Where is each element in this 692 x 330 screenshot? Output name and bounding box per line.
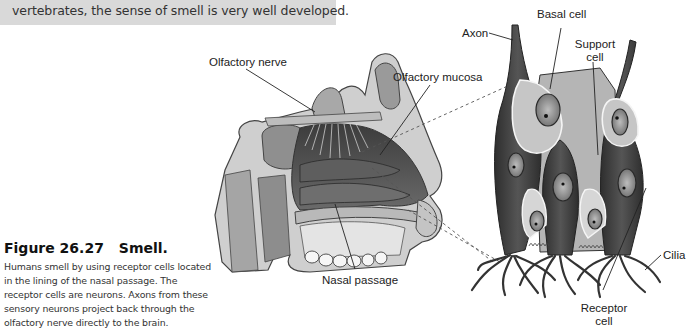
- label-olfactory-nerve: Olfactory nerve: [209, 56, 287, 69]
- label-support-cell-line1: Support: [573, 38, 617, 51]
- olfactory-epithelium: [472, 25, 660, 297]
- label-support-cell-line2: cell: [573, 51, 617, 64]
- label-receptor-cell-line2: cell: [577, 315, 631, 328]
- label-olfactory-mucosa: Olfactory mucosa: [393, 71, 482, 84]
- label-axon: Axon: [462, 27, 488, 40]
- nasal-cross-section: [215, 54, 442, 272]
- label-receptor-cell-line1: Receptor: [577, 302, 631, 315]
- label-receptor-cell: Receptor cell: [577, 302, 631, 328]
- label-cilia: Cilia: [663, 249, 685, 262]
- label-support-cell: Support cell: [573, 38, 617, 64]
- label-nasal-passage: Nasal passage: [322, 274, 398, 287]
- label-basal-cell: Basal cell: [537, 8, 586, 21]
